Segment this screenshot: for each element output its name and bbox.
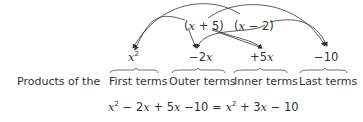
equation: x2 − 2x + 5x −10 = x2 + 3x − 10 xyxy=(108,100,299,114)
label-first: First terms xyxy=(109,75,168,88)
label-inner: Inner terms xyxy=(234,75,298,88)
label-outer: Outer terms xyxy=(169,75,236,88)
label-last: Last terms xyxy=(299,75,357,88)
label-prefix: Products of the xyxy=(17,75,100,88)
